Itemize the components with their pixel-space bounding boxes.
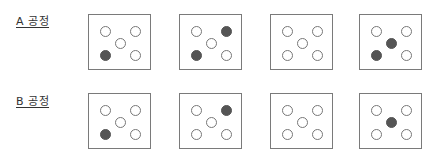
filled-circle-icon [221, 26, 232, 37]
empty-circle-icon [282, 26, 293, 37]
empty-circle-icon [282, 129, 293, 140]
empty-circle-icon [130, 26, 141, 37]
empty-circle-icon [297, 117, 308, 128]
sample-box [179, 93, 242, 149]
empty-circle-icon [191, 105, 202, 116]
filled-circle-icon [221, 105, 232, 116]
empty-circle-icon [401, 50, 412, 61]
sample-box [270, 93, 333, 149]
empty-circle-icon [371, 129, 382, 140]
empty-circle-icon [401, 105, 412, 116]
empty-circle-icon [371, 26, 382, 37]
filled-circle-icon [386, 38, 397, 49]
empty-circle-icon [312, 26, 323, 37]
sample-box [179, 14, 242, 70]
empty-circle-icon [282, 105, 293, 116]
empty-circle-icon [221, 50, 232, 61]
empty-circle-icon [206, 117, 217, 128]
empty-circle-icon [221, 129, 232, 140]
sample-box [359, 14, 422, 70]
empty-circle-icon [371, 105, 382, 116]
filled-circle-icon [371, 50, 382, 61]
sample-box [270, 14, 333, 70]
empty-circle-icon [312, 50, 323, 61]
row-label-b: B 공정 [16, 92, 49, 108]
empty-circle-icon [115, 117, 126, 128]
empty-circle-icon [100, 26, 111, 37]
empty-circle-icon [401, 26, 412, 37]
empty-circle-icon [191, 129, 202, 140]
sample-box [88, 14, 151, 70]
filled-circle-icon [100, 50, 111, 61]
empty-circle-icon [312, 129, 323, 140]
empty-circle-icon [130, 105, 141, 116]
empty-circle-icon [130, 50, 141, 61]
filled-circle-icon [100, 129, 111, 140]
empty-circle-icon [282, 50, 293, 61]
sample-box [359, 93, 422, 149]
empty-circle-icon [312, 105, 323, 116]
row-label-a: A 공정 [16, 12, 49, 28]
empty-circle-icon [115, 38, 126, 49]
empty-circle-icon [401, 129, 412, 140]
empty-circle-icon [100, 105, 111, 116]
empty-circle-icon [206, 38, 217, 49]
filled-circle-icon [386, 117, 397, 128]
empty-circle-icon [297, 38, 308, 49]
empty-circle-icon [130, 129, 141, 140]
empty-circle-icon [191, 26, 202, 37]
sample-box [88, 93, 151, 149]
filled-circle-icon [191, 50, 202, 61]
